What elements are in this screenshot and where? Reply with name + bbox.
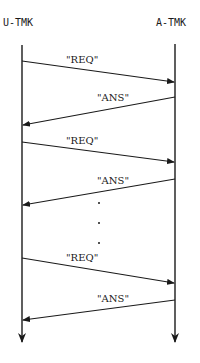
message-label-ans-1: "ANS" xyxy=(97,92,129,103)
ellipsis-dots xyxy=(98,202,100,244)
message-label-req-2: "REQ" xyxy=(66,135,98,146)
message-label-req-1: "REQ" xyxy=(66,54,98,65)
message-label-ans-2: "ANS" xyxy=(97,175,129,186)
lifeline-u-tmk xyxy=(18,45,26,343)
lifeline-a-tmk xyxy=(171,44,179,343)
message-label-req-3: "REQ" xyxy=(66,252,98,263)
message-label-ans-3: "ANS" xyxy=(97,293,129,304)
